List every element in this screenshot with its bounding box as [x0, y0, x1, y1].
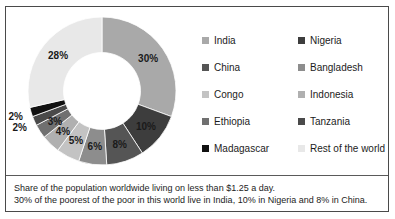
- chart-caption: Share of the population worldwide living…: [6, 176, 388, 211]
- donut-chart-svg: 30%10%8%6%5%4%3%2%2%28%: [6, 7, 196, 175]
- legend-item[interactable]: Indonesia: [298, 81, 388, 108]
- legend-item[interactable]: Ethiopia: [202, 108, 298, 135]
- donut-slice-value-label: 3%: [48, 116, 63, 127]
- legend-item-label: Nigeria: [310, 36, 342, 46]
- donut-slice[interactable]: [28, 17, 102, 107]
- legend-swatch-icon: [202, 37, 209, 44]
- legend-item[interactable]: Nigeria: [298, 27, 388, 54]
- legend-item-label: Congo: [214, 90, 243, 100]
- legend-item[interactable]: Rest of the world: [298, 135, 388, 162]
- legend-item-label: Tanzania: [310, 117, 350, 127]
- legend-item-label: Ethiopia: [214, 117, 250, 127]
- legend-item[interactable]: China: [202, 54, 298, 81]
- legend-swatch-icon: [298, 145, 305, 152]
- donut-slice-value-label: 28%: [48, 50, 68, 61]
- donut-slice-value-label: 2%: [12, 122, 27, 133]
- legend-item[interactable]: Congo: [202, 81, 298, 108]
- legend-item[interactable]: India: [202, 27, 298, 54]
- legend-item[interactable]: Tanzania: [298, 108, 388, 135]
- donut-slice-value-label: 10%: [136, 121, 156, 132]
- caption-line-2: 30% of the poorest of the poor in this w…: [14, 194, 380, 206]
- legend-swatch-icon: [202, 64, 209, 71]
- legend-swatch-icon: [202, 118, 209, 125]
- legend-item[interactable]: Bangladesh: [298, 54, 388, 81]
- donut-slice[interactable]: [102, 17, 176, 117]
- chart-area: 30%10%8%6%5%4%3%2%2%28% IndiaNigeriaChin…: [6, 7, 388, 175]
- legend-item-label: Bangladesh: [310, 63, 363, 73]
- donut-slice-value-label: 8%: [112, 139, 127, 150]
- donut-slice-value-label: 2%: [8, 111, 23, 122]
- chart-figure: 30%10%8%6%5%4%3%2%2%28% IndiaNigeriaChin…: [5, 6, 389, 212]
- legend-swatch-icon: [298, 37, 305, 44]
- legend-item-label: Rest of the world: [310, 144, 385, 154]
- chart-legend: IndiaNigeriaChinaBangladeshCongoIndonesi…: [202, 27, 388, 167]
- donut-slice-value-label: 30%: [138, 53, 158, 64]
- donut-chart: 30%10%8%6%5%4%3%2%2%28%: [6, 7, 196, 175]
- legend-swatch-icon: [298, 91, 305, 98]
- donut-slice-value-label: 4%: [56, 126, 71, 137]
- donut-slice-value-label: 6%: [88, 141, 103, 152]
- legend-swatch-icon: [202, 145, 209, 152]
- legend-item-label: Madagascar: [214, 144, 269, 154]
- legend-swatch-icon: [298, 118, 305, 125]
- donut-slice-value-label: 5%: [69, 135, 84, 146]
- caption-line-1: Share of the population worldwide living…: [14, 182, 380, 194]
- legend-item-label: Indonesia: [310, 90, 353, 100]
- legend-item-label: India: [214, 36, 236, 46]
- legend-swatch-icon: [202, 91, 209, 98]
- legend-item-label: China: [214, 63, 240, 73]
- legend-item[interactable]: Madagascar: [202, 135, 298, 162]
- legend-swatch-icon: [298, 64, 305, 71]
